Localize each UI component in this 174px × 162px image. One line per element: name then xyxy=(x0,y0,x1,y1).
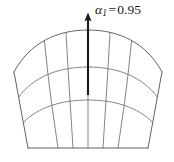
mesh-diagram-canvas xyxy=(0,0,174,162)
alpha1-value-label: α1=0.95 xyxy=(95,3,141,19)
equals-sign: = xyxy=(108,2,116,17)
alpha1-vector-arrow xyxy=(84,13,91,96)
radial-left-outer xyxy=(45,42,59,149)
edge-right xyxy=(148,72,162,148)
radial-right-outer xyxy=(118,42,132,149)
alpha-subscript: 1 xyxy=(102,8,107,18)
radial-right-inner xyxy=(103,33,110,149)
alpha-value: 0.95 xyxy=(117,2,141,17)
edge-left xyxy=(14,72,28,148)
figure-root: α1=0.95 xyxy=(0,0,174,162)
radial-left-inner xyxy=(66,33,73,149)
